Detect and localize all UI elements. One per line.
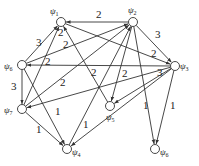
node-label-psi3: ψ3 [180,61,189,72]
edge-weight-label: 2 [60,76,66,88]
edge-psi3-psi4 [71,69,171,146]
edge-weight-label: 1 [83,118,89,130]
node-psi7 [18,105,27,114]
graph-diagram: 23222232321123111 ψ1ψ2ψ3ψ6ψ7ψ5ψ4ψ6 [0,0,199,166]
node-label-psi1: ψ1 [50,6,59,17]
node-psi4 [63,145,72,154]
node-label-psi7: ψ7 [4,105,13,116]
edge-weight-label: 2 [45,55,51,67]
edge-weight-label: 3 [157,66,163,78]
edge-weight-label: 2 [91,66,97,78]
edge-weight-label: 3 [11,80,17,92]
nodes-layer: ψ1ψ2ψ3ψ6ψ7ψ5ψ4ψ6 [4,5,189,158]
edge-psi4-psi2 [69,26,131,145]
node-psi3 [171,62,180,71]
node-label-psi4: ψ4 [72,147,81,158]
node-psi1 [57,18,66,27]
edge-weight-label: 1 [143,99,149,111]
edge-psi3-psi7 [27,67,171,107]
edge-weight-label: 2 [151,47,157,59]
node-psi2 [129,18,138,27]
edge-weight-label: 1 [36,123,42,135]
graph-canvas: 23222232321123111 ψ1ψ2ψ3ψ6ψ7ψ5ψ4ψ6 [0,0,199,166]
edge-weights-layer: 23222232321123111 [11,8,176,135]
node-psi5 [106,102,115,111]
node-label-psi6: ψ6 [4,61,13,72]
edge-psi2-psi8 [134,26,154,144]
edge-weight-label: 2 [96,8,102,20]
edge-weight-label: 2 [58,26,64,38]
node-label-psi8: ψ6 [160,147,169,158]
edge-psi2-psi5 [111,26,131,101]
edge-weight-label: 1 [55,105,61,117]
edge-psi7-psi4 [25,112,63,146]
edge-weight-label: 3 [155,28,161,40]
node-psi8 [151,145,160,154]
node-label-psi2: ψ2 [128,5,137,16]
node-psi6 [18,61,27,70]
edge-weight-label: 2 [122,67,128,79]
edge-weight-label: 1 [170,99,176,111]
edges-layer [22,22,174,146]
edge-weight-label: 3 [36,36,42,48]
edge-weight-label: 2 [63,38,69,50]
